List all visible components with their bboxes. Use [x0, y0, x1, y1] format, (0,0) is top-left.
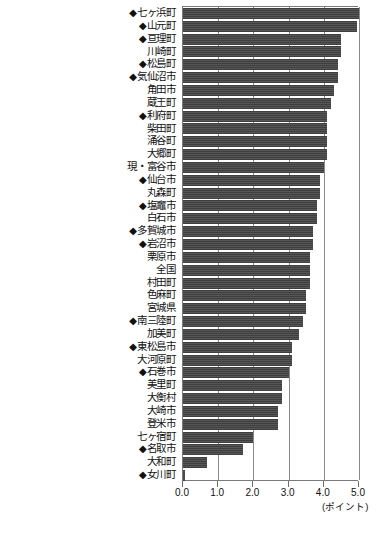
bar	[183, 342, 292, 353]
bar-row	[183, 71, 358, 84]
bar	[183, 278, 310, 289]
category-label: ◆山元町	[139, 19, 176, 32]
category-label: 白石市	[147, 211, 176, 224]
bar-row	[183, 418, 358, 431]
category-label-text: 多賀城市	[137, 224, 176, 236]
bar	[183, 252, 310, 263]
bar-row	[183, 123, 358, 136]
category-label-text: 仙台市	[147, 173, 176, 185]
category-label: 現・富谷市	[127, 160, 176, 173]
diamond-marker-icon: ◆	[139, 174, 147, 185]
category-label-text: 涌谷町	[147, 134, 176, 146]
bar-row	[183, 289, 358, 302]
category-label-text: 女川町	[147, 468, 176, 480]
category-label: 色麻町	[147, 288, 176, 301]
bar	[183, 265, 310, 276]
category-label: 丸森町	[147, 186, 176, 199]
x-tick-label: 5.0	[351, 487, 365, 498]
bar-row	[183, 277, 358, 290]
category-label: 美里町	[147, 378, 176, 391]
category-label-text: 大和町	[147, 455, 176, 467]
bar-row	[183, 225, 358, 238]
bar	[183, 85, 334, 96]
bar	[183, 34, 341, 45]
x-axis-unit-label: (ポイント)	[322, 499, 368, 513]
bar	[183, 355, 292, 366]
category-label: 大衡村	[147, 391, 176, 404]
bar	[183, 393, 282, 404]
category-label: 大和町	[147, 455, 176, 468]
category-label: ◆女川町	[139, 468, 176, 481]
category-label-text: 七ヶ宿町	[137, 430, 176, 442]
category-label-text: 名取市	[147, 442, 176, 454]
diamond-marker-icon: ◆	[139, 366, 147, 377]
bar-row	[183, 20, 358, 33]
bar	[183, 457, 207, 468]
x-tick-label: 3.0	[281, 487, 295, 498]
category-label: ◆名取市	[139, 442, 176, 455]
category-label-text: 南三陸町	[137, 314, 176, 326]
category-label-text: 石巻市	[147, 365, 176, 377]
bar-row	[183, 238, 358, 251]
bar-row	[183, 341, 358, 354]
bar-rows	[183, 7, 358, 480]
category-label-text: 柴田町	[147, 122, 176, 134]
category-label-text: 栗原市	[147, 250, 176, 262]
bar	[183, 380, 282, 391]
bar-row	[183, 200, 358, 213]
category-label: 涌谷町	[147, 134, 176, 147]
bar-row	[183, 264, 358, 277]
bar	[183, 226, 313, 237]
category-label: ◆仙台市	[139, 173, 176, 186]
category-label-text: 大崎市	[147, 404, 176, 416]
category-label: 全国	[156, 263, 176, 276]
category-label: 宮城県	[147, 301, 176, 314]
bar-row	[183, 174, 358, 187]
bar-row	[183, 456, 358, 469]
diamond-marker-icon: ◆	[129, 315, 137, 326]
category-label-text: 登米市	[147, 417, 176, 429]
category-label-text: 東松島市	[137, 340, 176, 352]
bar-row	[183, 110, 358, 123]
diamond-marker-icon: ◆	[129, 341, 137, 352]
bar	[183, 46, 341, 57]
bar-row	[183, 379, 358, 392]
bar	[183, 149, 327, 160]
diamond-marker-icon: ◆	[139, 110, 147, 121]
x-axis: 0.01.02.03.04.05.0	[182, 481, 358, 501]
bar-chart: ◆七ヶ浜町◆山元町◆亘理町川崎町◆松島町◆気仙沼市角田市蔵王町◆利府町柴田町涌谷…	[0, 0, 380, 534]
bar-row	[183, 97, 358, 110]
bar-row	[183, 84, 358, 97]
bar	[183, 175, 320, 186]
bar-row	[183, 302, 358, 315]
plot-area	[182, 6, 358, 481]
category-label-text: 村田町	[147, 276, 176, 288]
bar	[183, 470, 185, 481]
category-label-text: 加美町	[147, 327, 176, 339]
category-label: 角田市	[147, 83, 176, 96]
bar	[183, 213, 317, 224]
bar-row	[183, 148, 358, 161]
category-label-text: 色麻町	[147, 288, 176, 300]
diamond-marker-icon: ◆	[139, 469, 147, 480]
category-axis-labels: ◆七ヶ浜町◆山元町◆亘理町川崎町◆松島町◆気仙沼市角田市蔵王町◆利府町柴田町涌谷…	[0, 6, 180, 481]
category-label-text: 大河原町	[137, 353, 176, 365]
bar	[183, 406, 278, 417]
bar-row	[183, 58, 358, 71]
x-tick-label: 2.0	[245, 487, 259, 498]
bar-row	[183, 212, 358, 225]
x-tick-label: 4.0	[316, 487, 330, 498]
x-tick-label: 1.0	[210, 487, 224, 498]
category-label-text: 白石市	[147, 211, 176, 223]
category-label-text: 川崎町	[147, 45, 176, 57]
bar-row	[183, 46, 358, 59]
category-label: ◆松島町	[139, 57, 176, 70]
category-label: ◆利府町	[139, 109, 176, 122]
bar	[183, 239, 313, 250]
category-label: 登米市	[147, 417, 176, 430]
category-label-text: 気仙沼市	[137, 70, 176, 82]
category-label: ◆石巻市	[139, 365, 176, 378]
bar-row	[183, 33, 358, 46]
bar	[183, 316, 303, 327]
bar	[183, 432, 253, 443]
